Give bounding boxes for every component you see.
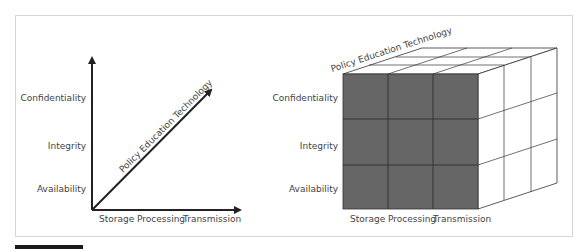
cube-y-label-integrity: Integrity [300, 141, 339, 151]
cube-y-label-availability: Availability [289, 184, 339, 194]
diagonal-axis [92, 90, 211, 210]
y-label-availability: Availability [37, 184, 87, 194]
figure-canvas: Confidentiality Integrity Availability S… [0, 0, 586, 249]
cube-x-label-storage: Storage [350, 214, 386, 224]
y-label-integrity: Integrity [48, 141, 87, 151]
cube-x-label-transmission: Transmission [432, 214, 491, 224]
footer-bar [15, 245, 83, 249]
diagonal-label: Policy Education Technology [117, 77, 214, 174]
cube-y-label-confidentiality: Confidentiality [272, 93, 338, 103]
cube-front-face [343, 74, 478, 209]
cube-x-label-processing: Processing [388, 214, 436, 224]
left-axes-diagram: Confidentiality Integrity Availability S… [20, 58, 241, 224]
x-label-storage: Storage [99, 214, 135, 224]
x-label-processing: Processing [137, 214, 185, 224]
x-label-transmission: Transmission [182, 214, 241, 224]
y-label-confidentiality: Confidentiality [20, 93, 86, 103]
cube-side-face [478, 48, 557, 209]
right-cube-diagram: Confidentiality Integrity Availability S… [272, 25, 557, 224]
